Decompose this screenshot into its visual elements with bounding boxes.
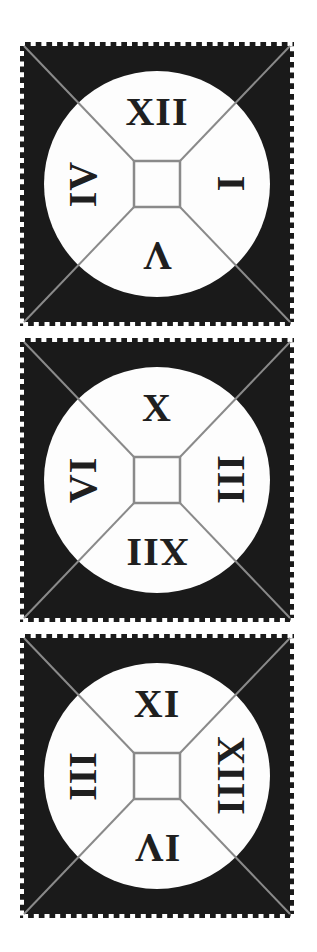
numeral-left: III — [60, 751, 105, 801]
numeral-top: XI — [134, 681, 180, 726]
center-square — [134, 753, 180, 799]
stamp-panel-2: X III XII VI — [17, 335, 297, 625]
stamp-panel-1: XII I V IV — [17, 39, 297, 329]
stamp-panel-3: XI XIII IV III — [17, 631, 297, 921]
numeral-bottom: IV — [134, 826, 180, 871]
numeral-top: XII — [125, 89, 188, 134]
stamp-column: XII I V IV X III XII VI — [17, 39, 297, 921]
numeral-left: VI — [60, 457, 105, 503]
puzzle-page: XII I V IV X III XII VI — [0, 0, 317, 952]
numeral-bottom: XII — [125, 530, 188, 575]
numeral-right: I — [209, 176, 254, 193]
numeral-right: XIII — [209, 736, 254, 816]
numeral-left: IV — [60, 161, 105, 207]
numeral-right: III — [209, 455, 254, 505]
center-square — [134, 161, 180, 207]
numeral-top: X — [142, 385, 172, 430]
center-square — [134, 457, 180, 503]
numeral-bottom: V — [142, 234, 172, 279]
